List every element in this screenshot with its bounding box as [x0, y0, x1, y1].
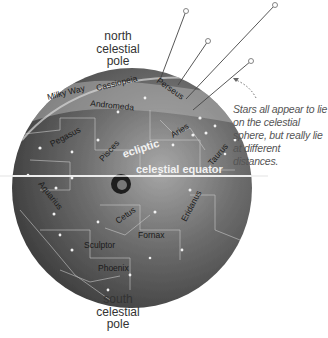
distance-note: Stars all appear to lie on the celestial… [233, 103, 328, 168]
label-sculptor: Sculptor [84, 240, 115, 250]
label-fornax: Fornax [138, 230, 165, 240]
distant-star-markers [184, 3, 278, 64]
south-pole-line-3: pole [78, 318, 158, 331]
south-pole-line-1: south [78, 293, 158, 306]
south-celestial-pole-label: south celestial pole [78, 293, 158, 331]
north-pole-line-3: pole [78, 55, 158, 68]
note-arrow [236, 80, 256, 98]
label-celestial-equator: celestial equator [136, 163, 224, 175]
label-phoenix: Phoenix [98, 263, 129, 273]
earth-core [117, 180, 127, 190]
north-celestial-pole-label: north celestial pole [78, 30, 158, 68]
north-pole-line-1: north [78, 30, 158, 43]
